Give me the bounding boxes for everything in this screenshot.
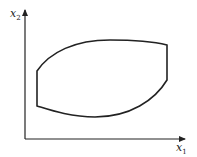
diagram-canvas	[0, 0, 197, 157]
y-axis-label: x2	[10, 8, 21, 22]
x-axis-label: x1	[176, 142, 187, 156]
feasible-region-boundary	[37, 40, 167, 117]
